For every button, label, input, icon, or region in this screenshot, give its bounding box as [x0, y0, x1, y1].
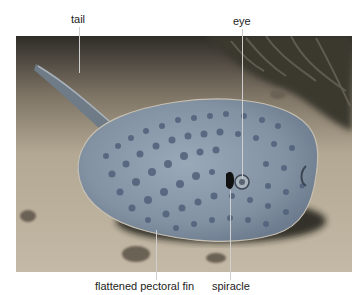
spiracle — [226, 172, 234, 189]
leader-line-tail — [79, 27, 80, 73]
leader-line-spiracle — [230, 190, 231, 280]
stingray-illustration — [16, 36, 352, 272]
label-flattened-pectoral-fin: flattened pectoral fin — [95, 280, 194, 292]
stingray-photo — [16, 36, 352, 272]
leader-line-fin — [156, 230, 157, 280]
label-spiracle: spiracle — [212, 280, 250, 292]
leader-line-eye — [242, 29, 243, 179]
label-tail: tail — [71, 13, 85, 25]
label-eye: eye — [233, 15, 251, 27]
